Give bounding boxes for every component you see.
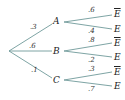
prob-c: .1	[31, 67, 38, 74]
edge-c-ebar	[64, 72, 112, 80]
leaf-b-e: E	[114, 53, 121, 62]
prob-b: .6	[29, 43, 36, 50]
prob-b-ebar: .8	[88, 37, 95, 44]
leaf-a-ebar: E	[114, 10, 121, 19]
node-b: B	[53, 47, 60, 56]
leaf-c-e: E	[114, 82, 121, 91]
prob-a: .3	[30, 24, 37, 31]
node-a: A	[53, 17, 60, 26]
prob-c-ebar: .3	[88, 66, 95, 73]
prob-a-ebar: .6	[88, 7, 95, 14]
tree-lines	[0, 0, 125, 100]
leaf-b-ebar: E	[114, 39, 121, 48]
prob-a-e: .4	[88, 28, 95, 35]
edge-a-ebar	[64, 15, 112, 22]
leaf-a-e: E	[114, 25, 121, 34]
prob-b-e: .2	[88, 57, 95, 64]
node-c: C	[53, 76, 60, 85]
prob-c-e: .7	[88, 86, 95, 93]
edge-b-ebar	[64, 43, 112, 51]
leaf-c-ebar: E	[114, 68, 121, 77]
